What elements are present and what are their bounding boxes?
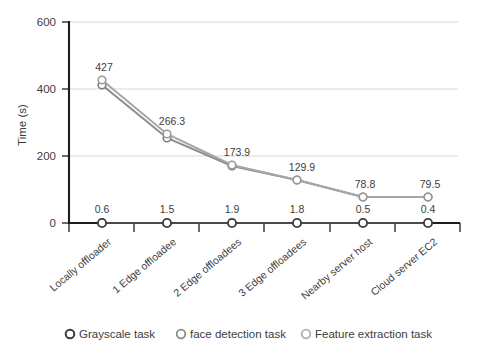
- data-point: [293, 176, 301, 184]
- x-axis: Locally offloader 1 Edge offloadee 2 Edg…: [47, 223, 460, 302]
- series-face-detection-task: [98, 81, 432, 201]
- chart-legend: Grayscale task face detection task Featu…: [66, 328, 433, 340]
- data-label: 266.3: [159, 115, 185, 127]
- data-point: [228, 161, 236, 169]
- data-label: 78.8: [355, 178, 376, 190]
- legend-label: Grayscale task: [79, 328, 155, 340]
- x-tick-label-3: 3 Edge offloadees: [236, 235, 308, 298]
- series-feature-extraction-task: 427 266.3 173.9 129.9 78.8 79.5: [95, 61, 440, 201]
- x-tick-label-1: 1 Edge offloadee: [110, 235, 179, 295]
- data-label: 1.8: [290, 203, 305, 215]
- data-point: [163, 219, 171, 227]
- data-point: [98, 219, 106, 227]
- data-label: 79.5: [420, 178, 441, 190]
- data-point: [359, 219, 367, 227]
- data-point: [293, 219, 301, 227]
- data-point: [424, 219, 432, 227]
- legend-item-feature-extraction-task[interactable]: Feature extraction task: [302, 328, 433, 340]
- series-line-feature-extraction: [102, 80, 428, 197]
- data-label: 0.6: [95, 203, 110, 215]
- legend-item-face-detection-task[interactable]: face detection task: [177, 328, 286, 340]
- data-label: 173.9: [224, 146, 250, 158]
- data-label: 427: [95, 61, 113, 73]
- legend-marker-icon: [66, 330, 75, 339]
- data-point: [228, 219, 236, 227]
- data-point: [359, 193, 367, 201]
- legend-label: face detection task: [190, 328, 286, 340]
- y-tick-label-600: 600: [37, 16, 56, 28]
- chart-container: 600 400 200 0 Time (s) Locally offloader…: [0, 0, 483, 359]
- y-tick-label-400: 400: [37, 83, 56, 95]
- legend-marker-icon: [302, 330, 311, 339]
- x-tick-label-4: Nearby server host: [299, 235, 375, 301]
- x-tick-label-5: Cloud server EC2: [368, 235, 439, 298]
- data-label: 1.5: [160, 203, 175, 215]
- y-tick-label-200: 200: [37, 150, 56, 162]
- legend-item-grayscale-task[interactable]: Grayscale task: [66, 328, 156, 340]
- legend-label: Feature extraction task: [315, 328, 432, 340]
- y-tick-label-0: 0: [50, 217, 56, 229]
- x-tick-label-2: 2 Edge offloadees: [171, 235, 243, 298]
- x-tick-label-0: Locally offloader: [47, 235, 114, 294]
- data-label: 1.9: [225, 203, 240, 215]
- data-point: [424, 193, 432, 201]
- data-label: 129.9: [289, 161, 315, 173]
- data-label: 0.5: [356, 203, 371, 215]
- series-grayscale-task: 0.6 1.5 1.9 1.8 0.5 0.4: [95, 203, 436, 227]
- data-point: [163, 130, 171, 138]
- legend-marker-icon: [177, 330, 186, 339]
- y-axis: 600 400 200 0 Time (s): [16, 16, 69, 229]
- data-point: [98, 76, 106, 84]
- line-chart: 600 400 200 0 Time (s) Locally offloader…: [0, 0, 483, 359]
- series-line-face-detection: [102, 85, 428, 197]
- gridlines: [68, 22, 458, 156]
- y-axis-title: Time (s): [16, 104, 28, 146]
- data-label: 0.4: [421, 203, 436, 215]
